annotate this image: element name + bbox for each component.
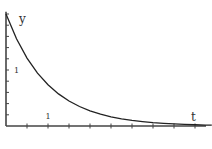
series-line	[6, 14, 212, 125]
y-axis-label: y	[18, 12, 26, 26]
tick-labels: 11	[14, 66, 51, 121]
tick-marks	[6, 14, 195, 129]
x-tick-label: 1	[45, 112, 50, 121]
y-tick-label: 1	[14, 66, 19, 75]
chart-canvas: y t 11	[0, 0, 212, 149]
x-axis-label: t	[191, 110, 196, 124]
